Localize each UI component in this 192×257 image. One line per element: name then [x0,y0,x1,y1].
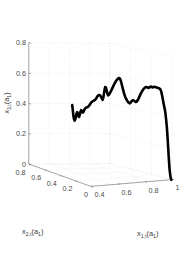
axes-panes [29,43,172,187]
y-tick-label: 0.8 [16,168,26,177]
y-tick-label: 0.4 [47,179,57,188]
z-tick-label: 0.2 [16,129,26,138]
y-tick-label: 0 [84,190,88,199]
right-wall-pane [110,43,172,179]
z-tick-labels: 0.8 0.6 0.4 0.2 0 [16,38,26,168]
z-axis-label: x3,t(a1) [2,92,12,113]
y-tick-label: 0.6 [31,173,41,182]
z-tick-label: 0.6 [16,69,26,78]
x-tick-label: 0.6 [122,188,132,197]
z-label-argclose: ) [2,92,11,94]
svg-text:x3,t(a1): x3,t(a1) [2,92,12,113]
x-tick-label: 1 [176,183,180,192]
plot-canvas: 0.8 0.6 0.4 0.2 0 0.8 0.6 0.4 0.2 0 0.4 … [0,0,192,257]
x-tick-label: 0.8 [149,186,159,195]
y-tick-label: 0.2 [62,184,72,193]
x-tick-labels: 0.4 0.6 0.8 1 [95,183,180,199]
x-axis-label: x1,t(a1) [137,229,158,239]
svg-text:x2,t(a1): x2,t(a1) [22,227,43,237]
z-tick-label: 0.4 [16,99,26,108]
svg-text:x1,t(a1): x1,t(a1) [137,229,158,239]
x-label-argclose: ) [156,229,158,238]
z-tick-label: 0.8 [16,38,26,47]
figure-3d-trajectory-plot: 0.8 0.6 0.4 0.2 0 0.8 0.6 0.4 0.2 0 0.4 … [0,0,192,257]
y-axis-label: x2,t(a1) [22,227,43,237]
y-label-argclose: ) [41,227,43,236]
x-tick-label: 0.4 [95,190,105,199]
